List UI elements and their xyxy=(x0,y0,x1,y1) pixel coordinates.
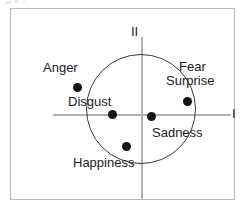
plot-frame: II I Anger Disgust Fear Surprise Sadness… xyxy=(10,8,235,200)
data-point-sadness xyxy=(147,112,156,121)
data-point-happiness xyxy=(122,142,131,151)
data-point-disgust xyxy=(108,110,117,119)
label-anger: Anger xyxy=(43,61,78,75)
data-point-surprise xyxy=(183,97,192,106)
axis-label-horizontal: I xyxy=(232,107,236,120)
data-point-anger xyxy=(73,83,82,92)
label-sadness: Sadness xyxy=(152,126,203,140)
scan-artifact xyxy=(22,1,25,3)
scan-artifact xyxy=(6,1,11,4)
scan-artifact xyxy=(14,0,18,3)
emotion-space-figure: II I Anger Disgust Fear Surprise Sadness… xyxy=(0,0,243,206)
label-happiness: Happiness xyxy=(73,156,134,170)
label-surprise: Surprise xyxy=(166,74,214,88)
label-disgust: Disgust xyxy=(68,95,111,109)
label-fear: Fear xyxy=(179,60,206,74)
axis-label-vertical: II xyxy=(131,25,138,38)
